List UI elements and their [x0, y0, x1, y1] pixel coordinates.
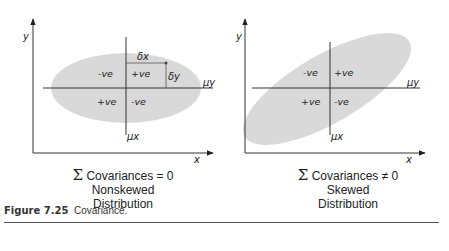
- figure-title: Covariance.: [74, 205, 127, 216]
- delta-x-label: δx: [137, 51, 149, 62]
- caption-line1: Covariances = 0: [86, 169, 173, 183]
- divider: [4, 222, 439, 223]
- caption-line1: Covariances ≠ 0: [312, 169, 399, 183]
- x-axis-label: x: [193, 154, 200, 165]
- skewed-caption: Σ Covariances ≠ 0 Skewed Distribution: [268, 168, 428, 211]
- skewed-ellipse: [228, 12, 427, 166]
- quadrant-bottom-left: +ve: [97, 96, 117, 107]
- mean-y-label: μy: [202, 77, 216, 88]
- figure-caption: Figure 7.25 Covariance.: [4, 205, 127, 216]
- delta-y-label: δy: [168, 71, 181, 82]
- mean-x-label: μx: [330, 131, 343, 142]
- x-axis-label: x: [405, 154, 412, 165]
- caption-line3: Distribution: [268, 197, 428, 211]
- caption-line2: Skewed: [268, 183, 428, 197]
- skewed-diagram: y x μy μx -ve +ve +ve -ve: [228, 12, 427, 166]
- nonskewed-diagram: y x μy μx δx δy -ve +ve +ve -ve: [22, 19, 216, 165]
- sigma-symbol: Σ: [73, 166, 84, 184]
- quadrant-bottom-right: -ve: [334, 96, 349, 107]
- quadrant-top-right: +ve: [131, 68, 151, 79]
- quadrant-bottom-left: +ve: [301, 96, 321, 107]
- caption-line2: Nonskewed: [48, 183, 198, 197]
- y-axis-label: y: [22, 31, 30, 42]
- figure-number: Figure 7.25: [4, 205, 68, 216]
- quadrant-bottom-right: -ve: [131, 96, 146, 107]
- quadrant-top-left: -ve: [303, 67, 318, 78]
- quadrant-top-left: -ve: [98, 68, 113, 79]
- sigma-symbol: Σ: [298, 166, 309, 184]
- quadrant-top-right: +ve: [334, 67, 354, 78]
- data-point: [165, 62, 168, 65]
- mean-x-label: μx: [126, 131, 139, 142]
- y-axis-label: y: [235, 31, 243, 42]
- mean-y-label: μy: [406, 77, 420, 88]
